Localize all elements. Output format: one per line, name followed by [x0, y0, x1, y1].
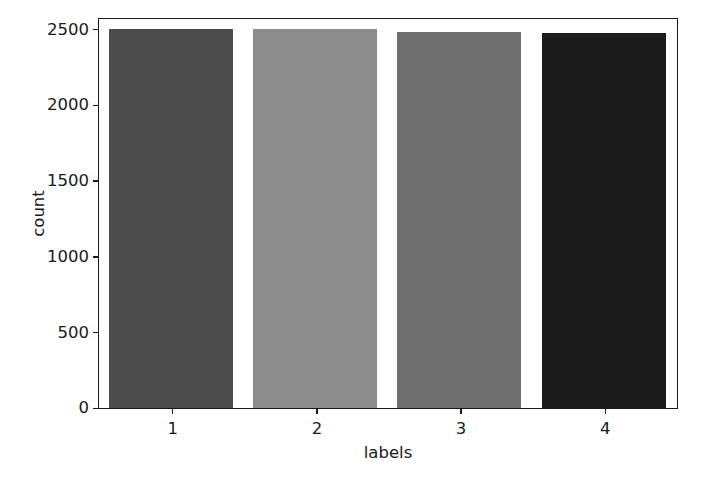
y-tick-mark [93, 105, 99, 107]
y-tick-label: 500 [58, 323, 90, 343]
y-tick-label: 0 [79, 398, 90, 418]
bar [253, 29, 377, 408]
x-tick-label: 3 [421, 419, 501, 438]
plot-axes: 05001000150020002500 1234 [98, 18, 678, 409]
x-tick-label: 4 [565, 419, 645, 438]
bar [109, 29, 233, 408]
x-tick-mark [172, 408, 174, 414]
bar [397, 32, 521, 408]
y-tick-label: 1000 [47, 247, 89, 267]
y-tick-mark [93, 180, 99, 182]
y-tick-label: 1500 [47, 171, 89, 191]
y-tick-mark [93, 332, 99, 334]
x-tick-label: 1 [133, 419, 213, 438]
y-tick-label: 2000 [47, 95, 89, 115]
y-tick-mark [93, 256, 99, 258]
x-tick-mark [605, 408, 607, 414]
y-tick-mark [93, 408, 99, 410]
x-tick-mark [316, 408, 318, 414]
y-axis-label: count [26, 18, 52, 409]
bar [542, 33, 666, 408]
plot-area [99, 19, 677, 408]
chart-figure: count 05001000150020002500 1234 labels [0, 0, 701, 479]
y-tick-label: 2500 [47, 20, 89, 40]
x-tick-mark [460, 408, 462, 414]
y-tick-mark [93, 29, 99, 31]
x-axis-label: labels [98, 443, 678, 462]
x-tick-label: 2 [277, 419, 357, 438]
